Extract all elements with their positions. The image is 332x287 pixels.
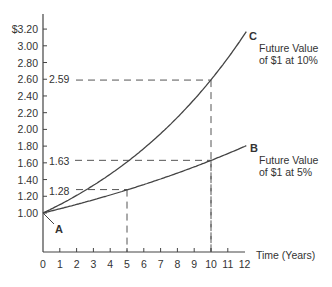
value-label-1-63: 1.63 xyxy=(49,155,70,167)
x-tick-label: 4 xyxy=(107,258,113,270)
curve-b xyxy=(43,146,246,213)
x-tick-label: 7 xyxy=(158,258,164,270)
y-tick-label: 2.40 xyxy=(18,90,39,102)
point-b-label: B xyxy=(250,142,258,154)
y-tick-label: 1.20 xyxy=(18,190,39,202)
x-tick-label: 2 xyxy=(74,258,80,270)
y-tick-label: 1.40 xyxy=(18,174,39,186)
y-tick-label: $3.20 xyxy=(12,23,38,35)
x-tick-label: 9 xyxy=(191,258,197,270)
y-tick-label: 2.60 xyxy=(18,73,39,85)
point-a-leader xyxy=(43,213,54,224)
y-tick-label: 1.60 xyxy=(18,157,39,169)
future-value-chart: $3.203.002.802.602.402.202.001.801.601.4… xyxy=(0,0,332,287)
series-b-label-line1: Future Value xyxy=(259,154,318,166)
curve-c xyxy=(43,32,246,213)
series-c-label-line2: of $1 at 10% xyxy=(259,54,318,66)
x-tick-label: 11 xyxy=(222,258,233,270)
y-tick-label: 2.80 xyxy=(18,57,39,69)
dashed-guides xyxy=(75,80,211,252)
x-tick-label: 5 xyxy=(124,258,130,270)
labels: A C Future Value of $1 at 10% B Future V… xyxy=(43,30,318,261)
y-tick-label: 1.80 xyxy=(18,140,39,152)
value-label-2-59: 2.59 xyxy=(49,73,70,85)
x-tick-label: 0 xyxy=(40,258,46,270)
y-tick-label: 1.00 xyxy=(18,207,39,219)
x-tick-label: 6 xyxy=(141,258,147,270)
series-b-label-line2: of $1 at 5% xyxy=(259,166,312,178)
y-tick-label: 3.00 xyxy=(18,40,39,52)
x-tick-label: 1 xyxy=(57,258,63,270)
x-tick-label: 12 xyxy=(239,258,251,270)
x-tick-label: 3 xyxy=(90,258,96,270)
x-tick-label: 10 xyxy=(205,258,217,270)
curves xyxy=(43,32,246,213)
x-ticks: 0123456789101112 xyxy=(40,248,251,270)
axes xyxy=(43,14,245,252)
point-a-label: A xyxy=(55,223,63,235)
x-axis-label: Time (Years) xyxy=(256,249,315,261)
value-label-1-28: 1.28 xyxy=(49,185,70,197)
y-tick-label: 2.00 xyxy=(18,123,39,135)
point-c-label: C xyxy=(249,30,257,42)
series-c-label-line1: Future Value xyxy=(259,42,318,54)
y-ticks: $3.203.002.802.602.402.202.001.801.601.4… xyxy=(12,23,47,219)
y-tick-label: 2.20 xyxy=(18,107,39,119)
x-tick-label: 8 xyxy=(174,258,180,270)
